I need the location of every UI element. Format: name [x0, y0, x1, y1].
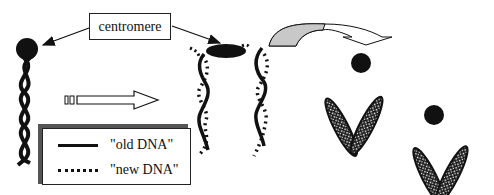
arrow-to-right-centromere	[172, 26, 220, 43]
process-arrow	[65, 91, 158, 109]
chromosome-1-arm-right	[346, 94, 388, 157]
curved-arrow	[269, 24, 392, 46]
left-centromere-icon	[16, 38, 38, 60]
centromere-label: centromere	[89, 13, 171, 40]
legend-item-old-dna: "old DNA"	[43, 135, 190, 155]
dotted-line-swatch	[58, 169, 98, 172]
legend-label: "new DNA"	[110, 162, 179, 178]
chromosome-1-centromere-icon	[351, 53, 371, 73]
middle-centromere-icon	[206, 44, 246, 58]
centromere-label-text: centromere	[99, 19, 162, 35]
old-strand-right	[256, 48, 266, 146]
replicated-helices	[190, 44, 267, 156]
left-helix	[16, 38, 38, 165]
legend-item-new-dna: "new DNA"	[43, 160, 190, 180]
chromosome-2	[408, 105, 472, 195]
dna-replication-diagram: centromere "old DNA" "new DNA"	[0, 0, 494, 195]
solid-line-swatch	[58, 144, 98, 147]
arrow-to-left-centromere	[43, 28, 89, 45]
legend: "old DNA" "new DNA"	[42, 128, 191, 185]
chromosome-1	[320, 53, 387, 159]
legend-label: "old DNA"	[110, 137, 173, 153]
chromosome-2-centromere-icon	[424, 105, 444, 125]
